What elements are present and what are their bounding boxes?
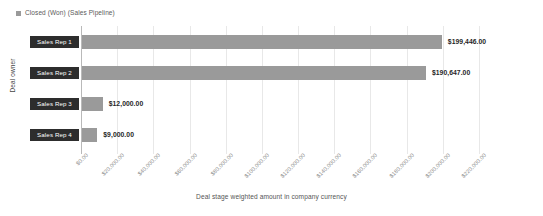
x-axis-title: Deal stage weighted amount in company cu… [0, 193, 543, 200]
x-tick-label: $140,000.00 [315, 152, 342, 179]
y-axis-title: Deal owner [6, 0, 20, 150]
legend-label: Closed (Won) (Sales Pipeline) [25, 10, 115, 17]
category-badge[interactable]: Sales Rep 2 [30, 67, 79, 79]
x-tick-label: $180,000.00 [388, 152, 415, 179]
bar[interactable] [81, 66, 426, 80]
gridline [479, 26, 480, 154]
y-axis-title-text: Deal owner [10, 58, 17, 92]
category-badge[interactable]: Sales Rep 4 [30, 129, 79, 141]
bar[interactable] [81, 97, 103, 111]
x-tick-label: $0.00 [75, 152, 89, 166]
x-tick-label: $80,000.00 [209, 152, 234, 177]
x-tick-label: $120,000.00 [279, 152, 306, 179]
chart-legend[interactable]: Closed (Won) (Sales Pipeline) [16, 7, 115, 19]
bar-chart: Closed (Won) (Sales Pipeline) Deal owner… [0, 0, 543, 216]
x-tick-label: $160,000.00 [352, 152, 379, 179]
bar-row[interactable]: $12,000.00 [81, 97, 479, 111]
bar-value-label: $199,446.00 [448, 38, 486, 45]
x-axis-ticks: $0.00$20,000.00$40,000.00$60,000.00$80,0… [81, 152, 479, 188]
bar-row[interactable]: $9,000.00 [81, 128, 479, 142]
bar-row[interactable]: $199,446.00 [81, 35, 479, 49]
x-tick-label: $40,000.00 [137, 152, 162, 177]
bar-value-label: $12,000.00 [109, 100, 144, 107]
plot-area: $199,446.00$190,647.00$12,000.00$9,000.0… [81, 26, 479, 150]
bar[interactable] [81, 35, 442, 49]
x-tick-label: $220,000.00 [460, 152, 487, 179]
x-tick-label: $100,000.00 [243, 152, 270, 179]
category-badge[interactable]: Sales Rep 3 [30, 98, 79, 110]
x-tick-label: $60,000.00 [173, 152, 198, 177]
bar-row[interactable]: $190,647.00 [81, 66, 479, 80]
category-badge[interactable]: Sales Rep 1 [30, 36, 79, 48]
x-tick-label: $20,000.00 [101, 152, 126, 177]
x-tick-label: $200,000.00 [424, 152, 451, 179]
bar[interactable] [81, 128, 97, 142]
bar-rows: $199,446.00$190,647.00$12,000.00$9,000.0… [81, 26, 479, 150]
bar-value-label: $190,647.00 [432, 69, 470, 76]
bar-value-label: $9,000.00 [103, 131, 134, 138]
